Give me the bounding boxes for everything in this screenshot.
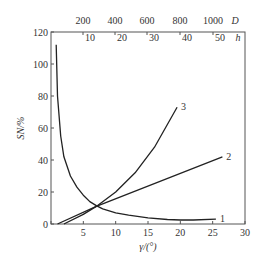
top-d-axis-label: D	[230, 15, 239, 26]
tick-labels: 5101520253002040608010012020040060080010…	[15, 15, 250, 253]
y-tick-label: 100	[33, 59, 48, 70]
y-axis-label: SN/%	[15, 117, 26, 140]
curve-3	[64, 107, 177, 224]
x-axis-label: γ/(°)	[139, 241, 157, 253]
top-h-tick-label: 50	[215, 32, 225, 43]
top-d-tick-label: 1000	[203, 15, 223, 26]
x-tick-label: 10	[111, 227, 121, 238]
y-tick-label: 80	[38, 91, 48, 102]
top-h-tick-label: 10	[85, 32, 95, 43]
curve-label-1: 1	[220, 213, 225, 224]
x-tick-label: 30	[240, 227, 250, 238]
x-tick-label: 5	[81, 227, 86, 238]
y-tick-label: 120	[33, 27, 48, 38]
chart: 5101520253002040608010012020040060080010…	[0, 0, 269, 267]
top-d-tick-label: 400	[108, 15, 123, 26]
top-h-tick-label: 20	[117, 32, 127, 43]
top-d-tick-label: 200	[76, 15, 91, 26]
top-h-axis-label: h	[236, 32, 241, 43]
curve-1	[56, 45, 216, 220]
x-tick-label: 25	[208, 227, 218, 238]
x-tick-label: 20	[175, 227, 185, 238]
y-tick-label: 20	[38, 187, 48, 198]
x-tick-label: 15	[143, 227, 153, 238]
y-tick-label: 60	[38, 123, 48, 134]
top-h-tick-label: 40	[182, 32, 192, 43]
curves: 123	[56, 45, 231, 224]
y-tick-label: 0	[43, 219, 48, 230]
y-tick-label: 40	[38, 155, 48, 166]
curve-label-3: 3	[181, 101, 186, 112]
top-d-tick-label: 600	[140, 15, 155, 26]
plot-frame	[51, 32, 245, 224]
top-h-tick-label: 30	[149, 32, 159, 43]
top-d-tick-label: 800	[173, 15, 188, 26]
curve-label-2: 2	[226, 151, 231, 162]
